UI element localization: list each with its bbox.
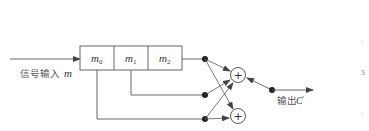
svg-text:+: + xyxy=(233,69,242,82)
svg-text:输出: 输出 xyxy=(277,95,297,106)
output-switch xyxy=(247,78,275,93)
register-cell-m1: m1 xyxy=(125,52,137,66)
tap-lines xyxy=(97,59,205,119)
input-symbol: m xyxy=(64,67,72,79)
adder-bottom: + xyxy=(231,109,246,124)
convolutional-encoder-diagram: 信号输入 m m0 m1 m2 + xyxy=(0,0,369,131)
svg-text::: : xyxy=(361,110,363,118)
junction-nodes xyxy=(202,56,208,122)
svg-text:5: 5 xyxy=(361,69,365,77)
svg-text::: : xyxy=(361,38,363,46)
edge-marks: : 5 : xyxy=(361,38,365,118)
svg-text:+: + xyxy=(233,110,242,123)
input-label: 信号输入 m xyxy=(20,67,72,79)
tap-m0 xyxy=(97,70,205,119)
svg-text:m1: m1 xyxy=(125,52,137,66)
output-symbol: C′ xyxy=(296,94,305,106)
svg-text:m2: m2 xyxy=(159,52,171,66)
register-cell-m0: m0 xyxy=(91,52,103,66)
svg-text:m0: m0 xyxy=(91,52,103,66)
input-label-text: 信号输入 xyxy=(20,68,60,79)
shift-register: m0 m1 m2 xyxy=(80,46,182,70)
adder-top: + xyxy=(231,68,246,83)
adder-connections xyxy=(205,59,233,119)
tap-m1 xyxy=(131,70,205,95)
register-cell-m2: m2 xyxy=(159,52,171,66)
output-label: 输出 C′ xyxy=(277,94,305,106)
